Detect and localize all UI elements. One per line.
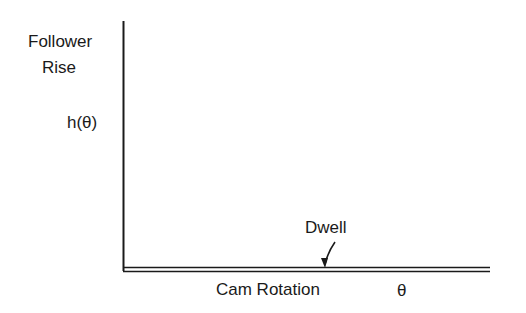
y-axis-label-line2: Rise	[42, 59, 76, 76]
x-axis-symbol: θ	[397, 282, 406, 299]
y-axis-symbol: h(θ)	[67, 114, 97, 131]
dwell-arrow-icon	[321, 242, 335, 268]
x-axis-label: Cam Rotation	[216, 281, 320, 298]
dwell-annotation: Dwell	[305, 219, 347, 236]
y-axis-label-line1: Follower	[28, 33, 92, 50]
